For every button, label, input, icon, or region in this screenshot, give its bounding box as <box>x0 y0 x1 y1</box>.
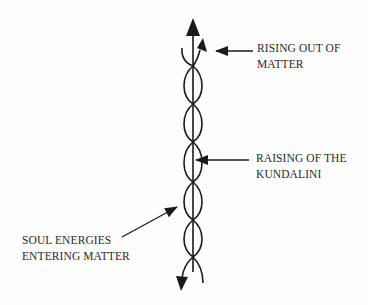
helix-strands <box>176 38 207 291</box>
label-soul-line-2: ENTERING MATTER <box>22 248 130 264</box>
label-soul: SOUL ENERGIES ENTERING MATTER <box>22 232 130 264</box>
helix-diagram: RISING OUT OF MATTER RAISING OF THE KUND… <box>0 0 368 305</box>
strand-up-arrowhead-icon <box>197 38 207 52</box>
label-rising: RISING OUT OF MATTER <box>257 40 341 72</box>
axis-arrowhead-icon <box>186 18 200 36</box>
strand-down-arrowhead-icon <box>176 276 188 291</box>
label-kundalini-line-1: RAISING OF THE <box>256 150 347 166</box>
label-pointers <box>122 51 253 237</box>
label-rising-line-2: MATTER <box>257 56 341 72</box>
soul-pointer-arrow-icon <box>122 207 177 237</box>
label-rising-line-1: RISING OUT OF <box>257 40 341 56</box>
label-kundalini: RAISING OF THE KUNDALINI <box>256 150 347 182</box>
label-kundalini-line-2: KUNDALINI <box>256 166 347 182</box>
label-soul-line-1: SOUL ENERGIES <box>22 232 130 248</box>
